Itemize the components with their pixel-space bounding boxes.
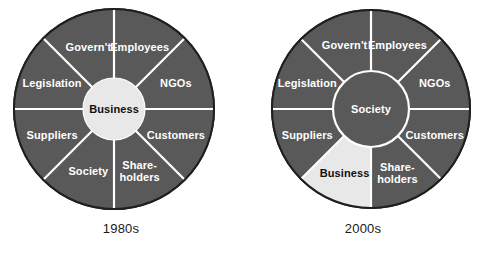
wheel-hub-label: Society [351, 103, 392, 115]
wheel-diagram-1980s: BusinessEmployeesNGOsCustomersShare-hold… [0, 0, 242, 220]
wheel-segment-label: Customers [406, 129, 464, 141]
wheel-segment-label: Suppliers [282, 129, 333, 141]
wheel-segment-label: NGOs [419, 77, 451, 89]
wheel-segment-label: Employees [110, 41, 169, 53]
caption-1980s: 1980s [0, 221, 242, 236]
stakeholder-wheels-figure: BusinessEmployeesNGOsCustomersShare-hold… [0, 0, 484, 257]
wheel-segment-label: Legislation [278, 77, 337, 89]
wheel-segment-label: Employees [368, 39, 427, 51]
wheel-segment-label: Society [68, 165, 109, 177]
wheel-segment-label: Suppliers [27, 129, 78, 141]
wheel-segment-label: Customers [147, 129, 205, 141]
wheel-segment-label: NGOs [160, 77, 192, 89]
wheel-panel-1980s: BusinessEmployeesNGOsCustomersShare-hold… [0, 0, 242, 257]
wheel-segment-label: Govern't [66, 41, 112, 53]
wheel-segment-label: Business [320, 167, 370, 179]
wheel-panel-2000s: SocietyEmployeesNGOsCustomersShare-holde… [242, 0, 484, 257]
wheel-segment-label: Legislation [23, 77, 82, 89]
wheel-segment-label: Share-holders [377, 161, 417, 185]
wheel-hub-label: Business [89, 103, 139, 115]
wheel-segment-label: Share-holders [119, 159, 159, 183]
caption-2000s: 2000s [242, 221, 484, 236]
wheel-segment-label: Govern't [322, 39, 368, 51]
wheel-diagram-2000s: SocietyEmployeesNGOsCustomersShare-holde… [242, 0, 484, 220]
